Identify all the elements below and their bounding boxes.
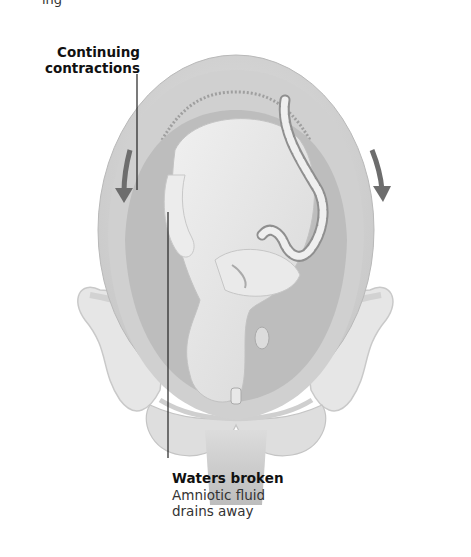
cervical-os-icon — [231, 388, 241, 404]
waters-desc-line1: Amniotic fluid — [172, 487, 312, 503]
waters-broken-label: Waters broken — [172, 470, 284, 486]
waters-broken-description: Amniotic fluid drains away — [172, 487, 312, 519]
down-arrow-right-icon — [372, 150, 391, 202]
waters-desc-line2: drains away — [172, 503, 312, 519]
